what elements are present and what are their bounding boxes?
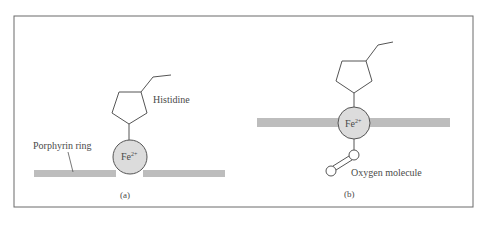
- o2-bond-1: [333, 156, 349, 166]
- heme-diagram: Fe2+ Histidine Porphyrin ring (a) Fe2+ O…: [0, 0, 484, 233]
- panel-b: Fe2+ Oxygen molecule (b): [257, 42, 450, 199]
- histidine-side-chain: [141, 75, 171, 92]
- histidine-ring: [112, 92, 147, 124]
- o2-bond-2: [336, 160, 352, 170]
- caption-b: (b): [344, 189, 355, 199]
- porphyrin-leader-line: [68, 152, 73, 172]
- caption-a: (a): [120, 190, 130, 200]
- porphyrin-label: Porphyrin ring: [33, 140, 92, 151]
- histidine-ring: [336, 61, 372, 93]
- oxygen-atom: [326, 166, 336, 176]
- histidine-label: Histidine: [153, 94, 190, 105]
- histidine-side-chain: [366, 42, 393, 61]
- oxygen-label: Oxygen molecule: [351, 167, 422, 178]
- panel-a: Fe2+ Histidine Porphyrin ring (a): [33, 75, 225, 200]
- figure-border: [14, 16, 473, 207]
- porphyrin-ring-right: [143, 170, 225, 177]
- porphyrin-ring-left: [34, 170, 116, 177]
- oxygen-atom: [349, 150, 359, 160]
